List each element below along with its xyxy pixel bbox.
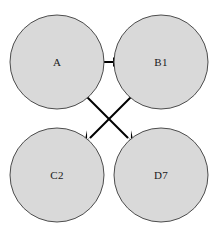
node-d7[interactable]: D7 <box>114 128 208 222</box>
node-b1[interactable]: B1 <box>114 15 208 109</box>
node-d7-label: D7 <box>154 169 168 181</box>
diagram-canvas: A B1 C2 D7 <box>0 0 214 227</box>
node-c2-label: C2 <box>50 169 63 181</box>
node-a[interactable]: A <box>10 15 104 109</box>
node-a-label: A <box>53 56 61 68</box>
edge-b1-to-c2-line <box>90 94 134 138</box>
edge-a-to-d7-line <box>84 94 128 138</box>
graph-svg: A B1 C2 D7 <box>0 0 214 227</box>
node-c2[interactable]: C2 <box>10 128 104 222</box>
node-b1-label: B1 <box>154 56 167 68</box>
